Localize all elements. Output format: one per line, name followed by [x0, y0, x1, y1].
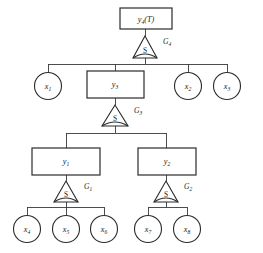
node-y1[interactable]: y1: [32, 148, 100, 175]
node-x3[interactable]: x3: [214, 73, 241, 100]
node-y2[interactable]: y2: [138, 148, 196, 175]
operator-g2-label: G2: [184, 182, 192, 192]
node-x1[interactable]: x1: [35, 73, 62, 100]
operator-g3-symbol: S: [113, 114, 117, 123]
operator-g4[interactable]: S G4: [133, 36, 171, 58]
operator-g2[interactable]: S G2: [154, 181, 192, 202]
node-x2[interactable]: x2: [175, 73, 202, 100]
tree-diagram: y4(T) S G4 x1 y3 x2 x3: [0, 0, 263, 253]
operator-g4-label: G4: [163, 37, 171, 47]
operator-g3-label: G3: [134, 106, 142, 116]
operator-g1-label: G1: [84, 182, 92, 192]
operator-g3[interactable]: S G3: [102, 105, 142, 126]
node-x4[interactable]: x4: [14, 216, 41, 243]
node-x7[interactable]: x7: [135, 216, 162, 243]
edge-group-level4: [66, 175, 166, 181]
node-x5[interactable]: x5: [53, 216, 80, 243]
node-x8[interactable]: x8: [174, 216, 201, 243]
operator-g1[interactable]: S G1: [54, 181, 92, 202]
operator-g4-symbol: S: [143, 46, 147, 55]
node-x6[interactable]: x6: [91, 216, 118, 243]
node-y4[interactable]: y4(T): [120, 8, 172, 29]
edge-group-level3: [66, 124, 166, 148]
operator-g2-symbol: S: [164, 190, 168, 199]
node-y4-label: y4(T): [137, 15, 155, 25]
diagram-canvas: y4(T) S G4 x1 y3 x2 x3: [0, 0, 263, 253]
operator-g1-symbol: S: [64, 190, 68, 199]
node-y3[interactable]: y3: [87, 71, 144, 98]
